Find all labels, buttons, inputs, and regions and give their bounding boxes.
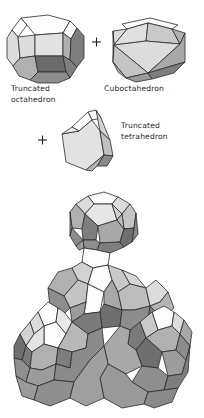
label-cuboctahedron: Cuboctahedron: [104, 84, 164, 95]
plus-operator-1-glyph: [92, 38, 101, 47]
truncated-octahedron-shape: [7, 15, 84, 83]
truncated-tetrahedron-shape: [62, 110, 113, 171]
label-truncated-tetrahedron-line2: tetrahedron: [121, 132, 168, 141]
label-truncated-tetrahedron: Truncatedtetrahedron: [121, 121, 168, 142]
label-truncated-tetrahedron-line1: Truncated: [121, 121, 160, 130]
cuboctahedron-shape: [113, 18, 185, 82]
label-truncated-octahedron-line2: octahedron: [11, 95, 56, 104]
label-truncated-octahedron: Truncatedoctahedron: [11, 84, 56, 105]
label-truncated-octahedron-line1: Truncated: [11, 84, 50, 93]
label-cuboctahedron-line1: Cuboctahedron: [104, 84, 164, 93]
polyhedra-figure: [0, 0, 204, 418]
assembly-top-polyhedron: [70, 192, 138, 253]
plus-operator-2-glyph: [38, 136, 47, 145]
